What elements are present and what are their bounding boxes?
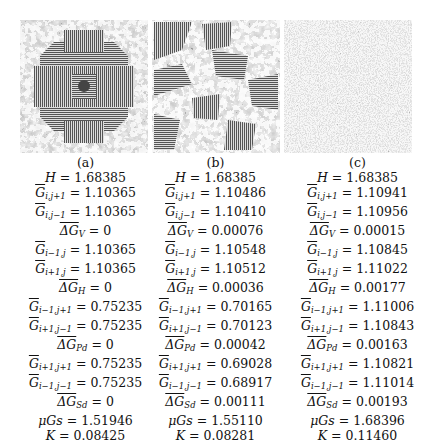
- panel-caption: (a): [14, 155, 157, 170]
- texture-image-b: [152, 20, 280, 153]
- metric-muGs: μGs = 1.55110: [144, 413, 287, 428]
- metric-dG-H: ΔGH = 0: [14, 280, 157, 299]
- metric-G-ip1-j: Gi+1,j = 1.10365: [14, 261, 157, 280]
- metric-muGs: μGs = 1.51946: [14, 413, 157, 428]
- metric-H: H = 1.68385: [144, 170, 287, 185]
- metric-dG-Pd: ΔGPd = 0.00163: [286, 337, 429, 356]
- metric-G-ip1-jm1: Gi+1,j−1 = 0.75235: [14, 318, 157, 337]
- metric-G-im1-jm1: Gi−1,j−1 = 1.11014: [286, 375, 429, 394]
- metric-K: K = 0.08425: [14, 428, 157, 443]
- metric-G-ip1-j: Gi+1,j = 1.10512: [144, 261, 287, 280]
- texture-image-c: [284, 20, 412, 153]
- metric-dG-V: ΔGV = 0.00076: [144, 223, 287, 242]
- metric-G-im1-j: Gi−1,j = 1.10845: [286, 242, 429, 261]
- metric-G-im1-j: Gi−1,j = 1.10365: [14, 242, 157, 261]
- metric-G-i-jm1: Gi,j−1 = 1.10956: [286, 204, 429, 223]
- metric-G-i-jp1: Gi,j+1 = 1.10486: [144, 185, 287, 204]
- metric-G-i-jm1: Gi,j−1 = 1.10365: [14, 204, 157, 223]
- metric-G-im1-jm1: Gi−1,j−1 = 0.75235: [14, 375, 157, 394]
- metric-G-i-jm1: Gi,j−1 = 1.10410: [144, 204, 287, 223]
- metric-dG-Pd: ΔGPd = 0.00042: [144, 337, 287, 356]
- metric-muGs: μGs = 1.68396: [286, 413, 429, 428]
- metric-G-ip1-jm1: Gi+1,j−1 = 0.70123: [144, 318, 287, 337]
- panel-caption: (b): [144, 155, 287, 170]
- metrics-column-a: (a) H = 1.68385 Gi,j+1 = 1.10365 Gi,j−1 …: [14, 155, 157, 443]
- metric-G-im1-jp1: Gi−1,j+1 = 0.75235: [14, 299, 157, 318]
- metric-G-ip1-jm1: Gi+1,j−1 = 1.10843: [286, 318, 429, 337]
- metric-dG-H: ΔGH = 0.00177: [286, 280, 429, 299]
- metric-G-im1-jp1: Gi−1,j+1 = 1.11006: [286, 299, 429, 318]
- panel-caption: (c): [286, 155, 429, 170]
- metric-G-ip1-jp1: Gi+1,j+1 = 0.69028: [144, 356, 287, 375]
- texture-image-a: [20, 20, 148, 153]
- metric-G-i-jp1: Gi,j+1 = 1.10941: [286, 185, 429, 204]
- metric-dG-H: ΔGH = 0.00036: [144, 280, 287, 299]
- metrics-column-b: (b) H = 1.68385 Gi,j+1 = 1.10486 Gi,j−1 …: [144, 155, 287, 443]
- metric-dG-Sd: ΔGSd = 0.00193: [286, 394, 429, 413]
- metric-H: H = 1.68385: [14, 170, 157, 185]
- metric-dG-V: ΔGV = 0: [14, 223, 157, 242]
- metric-H: H = 1.68385: [286, 170, 429, 185]
- metric-dG-Pd: ΔGPd = 0: [14, 337, 157, 356]
- metrics-column-c: (c) H = 1.68385 Gi,j+1 = 1.10941 Gi,j−1 …: [286, 155, 429, 443]
- metric-G-im1-jm1: Gi−1,j−1 = 0.68917: [144, 375, 287, 394]
- metric-G-ip1-jp1: Gi+1,j+1 = 1.10821: [286, 356, 429, 375]
- metric-K: K = 0.08281: [144, 428, 287, 443]
- metric-K: K = 0.11460: [286, 428, 429, 443]
- metric-G-ip1-jp1: Gi+1,j+1 = 0.75235: [14, 356, 157, 375]
- metric-G-im1-jp1: Gi−1,j+1 = 0.70165: [144, 299, 287, 318]
- metric-G-im1-j: Gi−1,j = 1.10548: [144, 242, 287, 261]
- metric-dG-V: ΔGV = 0.00015: [286, 223, 429, 242]
- metric-dG-Sd: ΔGSd = 0: [14, 394, 157, 413]
- metric-G-ip1-j: Gi+1,j = 1.11022: [286, 261, 429, 280]
- metric-G-i-jp1: Gi,j+1 = 1.10365: [14, 185, 157, 204]
- metric-dG-Sd: ΔGSd = 0.00111: [144, 394, 287, 413]
